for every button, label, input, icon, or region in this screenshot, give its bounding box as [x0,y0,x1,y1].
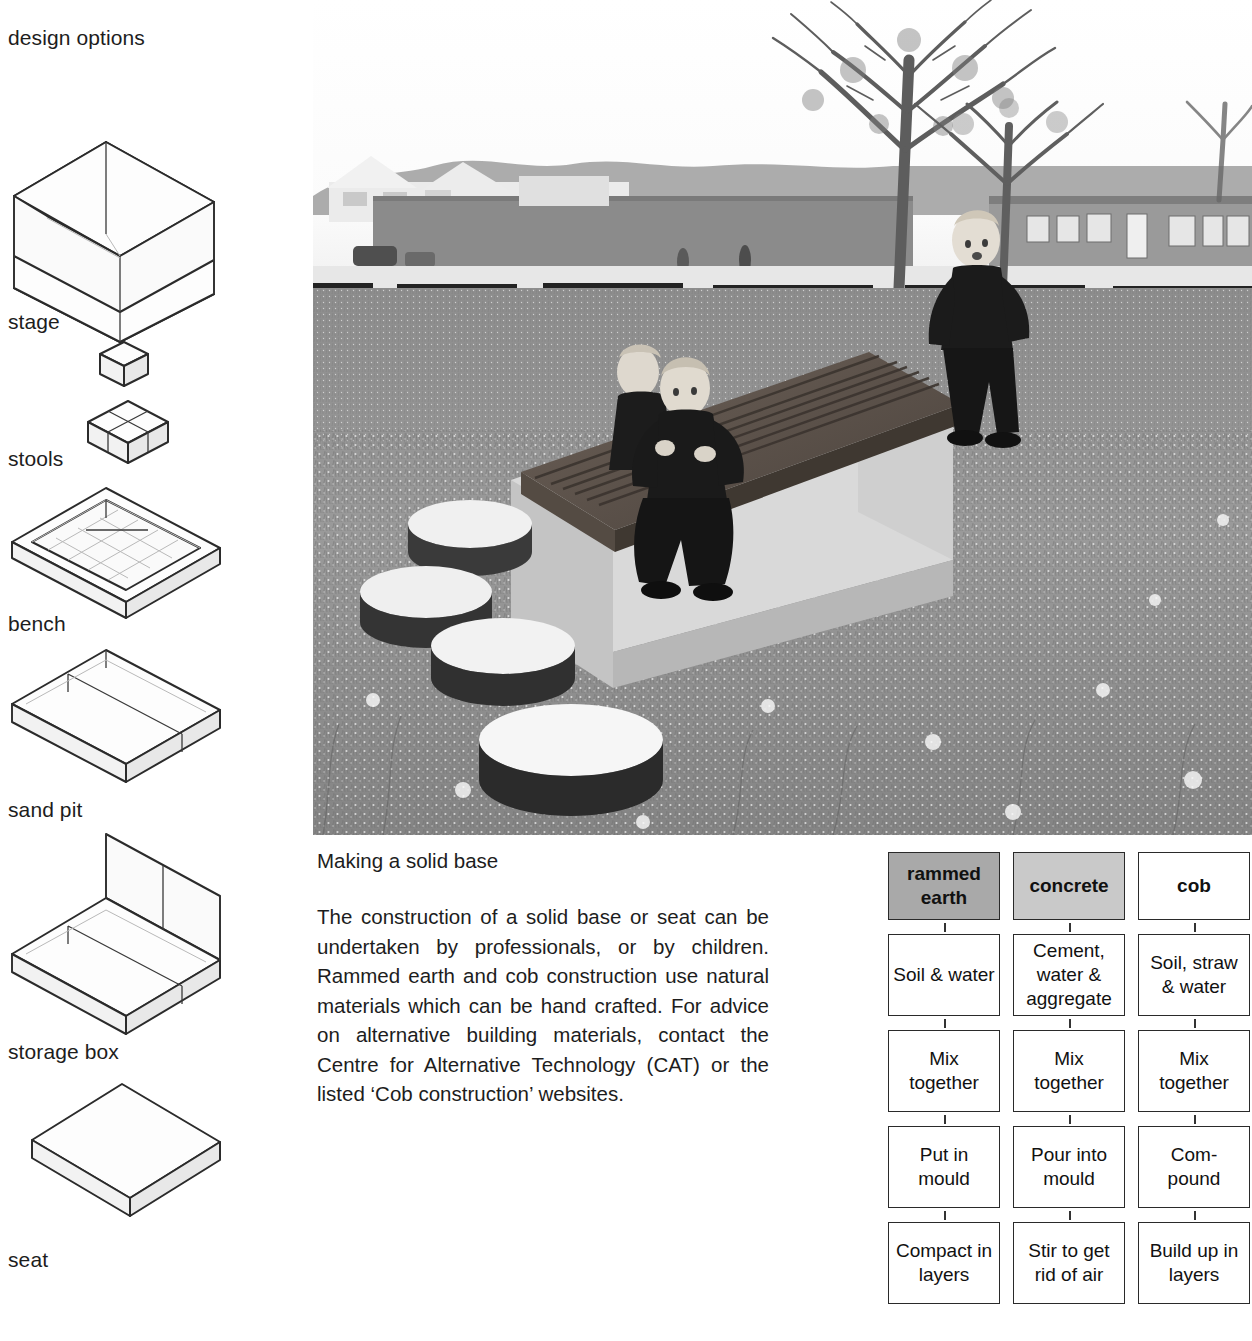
flow-connector [1013,1016,1125,1030]
design-options-heading: design options [8,26,145,50]
flow-step-mould[interactable]: Put in mould [888,1126,1000,1208]
flow-step-mix[interactable]: Mix together [888,1030,1000,1112]
cube-stools-icon [96,340,166,392]
flow-connector [1138,1016,1250,1030]
article-body: The construction of a solid base or seat… [317,902,769,1109]
sidebar-item-label-sandpit: sand pit [8,798,82,822]
article-heading: Making a solid base [317,848,769,874]
sidebar-item-label-storage-box: storage box [8,1040,119,1064]
flow-connector [1013,920,1125,934]
log-stool-1 [408,500,532,576]
flow-header-cob[interactable]: cob [1138,852,1250,920]
materials-flowchart: rammed earth Soil & water Mix together P… [888,852,1252,1304]
backed-box-storage-icon [8,830,224,1040]
cube-cluster-stools-icon [82,396,192,472]
sidebar-item-label-bench: bench [8,612,66,636]
log-stool-3 [431,618,575,706]
flow-connector [1013,1112,1125,1126]
flow-step-mould[interactable]: Pour into mould [1013,1126,1125,1208]
log-stool-4 [479,704,663,816]
flow-step-mix[interactable]: Mix together [1138,1030,1250,1112]
flow-connector [1138,1112,1250,1126]
flow-connector [888,1112,1000,1126]
flow-connector [888,1016,1000,1030]
flow-connector [1138,1208,1250,1222]
flow-step-mould[interactable]: Com- pound [1138,1126,1250,1208]
page-root: design options stage [0,0,1252,1341]
flow-header-rammed-earth[interactable]: rammed earth [888,852,1000,920]
flow-column-concrete: concrete Cement, water & aggregate Mix t… [1013,852,1125,1304]
sidebar-item-label-seat: seat [8,1248,48,1272]
flow-connector [888,920,1000,934]
flow-step-ingredients[interactable]: Soil, straw & water [1138,934,1250,1016]
flow-connector [888,1208,1000,1222]
design-options-column: design options stage [0,0,300,1341]
flow-header-concrete[interactable]: concrete [1013,852,1125,920]
flow-step-ingredients[interactable]: Cement, water & aggregate [1013,934,1125,1016]
flow-connector [1013,1208,1125,1222]
flow-step-finish[interactable]: Stir to get rid of air [1013,1222,1125,1304]
photograph-content [313,0,1252,835]
tray-bench-icon [8,478,224,618]
sidebar-item-label-stage: stage [8,310,60,334]
slab-seat-icon [26,1074,226,1214]
flow-column-rammed-earth: rammed earth Soil & water Mix together P… [888,852,1000,1304]
flow-step-ingredients[interactable]: Soil & water [888,934,1000,1016]
sidebar-item-label-stools: stools [8,447,63,471]
flow-column-cob: cob Soil, straw & water Mix together Com… [1138,852,1250,1304]
article-block: Making a solid base The construction of … [317,848,769,1109]
split-slab-sandpit-icon [8,648,224,790]
flow-step-mix[interactable]: Mix together [1013,1030,1125,1112]
playground-photograph [313,0,1252,835]
flow-connector [1138,920,1250,934]
flow-step-finish[interactable]: Compact in layers [888,1222,1000,1304]
flow-step-finish[interactable]: Build up in layers [1138,1222,1250,1304]
open-box-stage-icon [2,68,238,308]
